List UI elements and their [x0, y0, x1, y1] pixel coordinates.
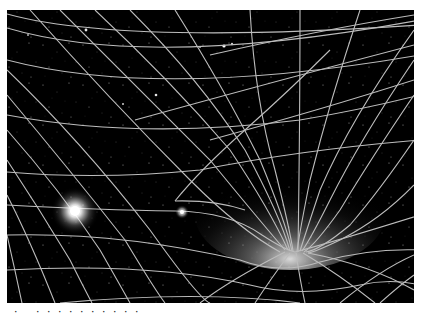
starfield-canvas — [7, 10, 414, 303]
figure-caption: · . · · · · · · · · · · — [14, 306, 254, 313]
spacetime-illustration — [7, 10, 414, 303]
